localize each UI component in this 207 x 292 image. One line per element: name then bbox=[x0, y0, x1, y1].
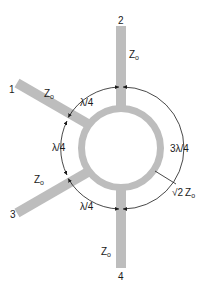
section-1-3-length: λ/4 bbox=[52, 142, 66, 153]
port-3-impedance: Zo bbox=[34, 174, 44, 186]
port-1-label: 1 bbox=[9, 84, 15, 95]
port-3-label: 3 bbox=[10, 209, 16, 220]
port-stubs bbox=[14, 26, 126, 268]
section-1-2-length: λ/4 bbox=[80, 97, 94, 108]
port-4-impedance: Zo bbox=[101, 246, 111, 258]
section-2-4-length: 3λ/4 bbox=[170, 143, 189, 154]
port-4-label: 4 bbox=[118, 271, 124, 282]
port-1-impedance: Zo bbox=[44, 88, 54, 100]
section-3-4-length: λ/4 bbox=[80, 201, 94, 212]
ring-impedance-leader bbox=[155, 171, 176, 184]
ring-impedance-label: √2Zo bbox=[172, 187, 195, 199]
port-2-line bbox=[116, 26, 126, 110]
port-2-label: 2 bbox=[118, 15, 124, 26]
ring-line bbox=[82, 109, 161, 188]
port-2-impedance: Zo bbox=[129, 49, 139, 61]
rat-race-coupler-diagram: 2 4 1 3 Zo Zo Zo Zo λ/4 λ/4 λ/4 3λ/4 √2Z… bbox=[0, 0, 207, 292]
port-4-line bbox=[116, 186, 126, 268]
